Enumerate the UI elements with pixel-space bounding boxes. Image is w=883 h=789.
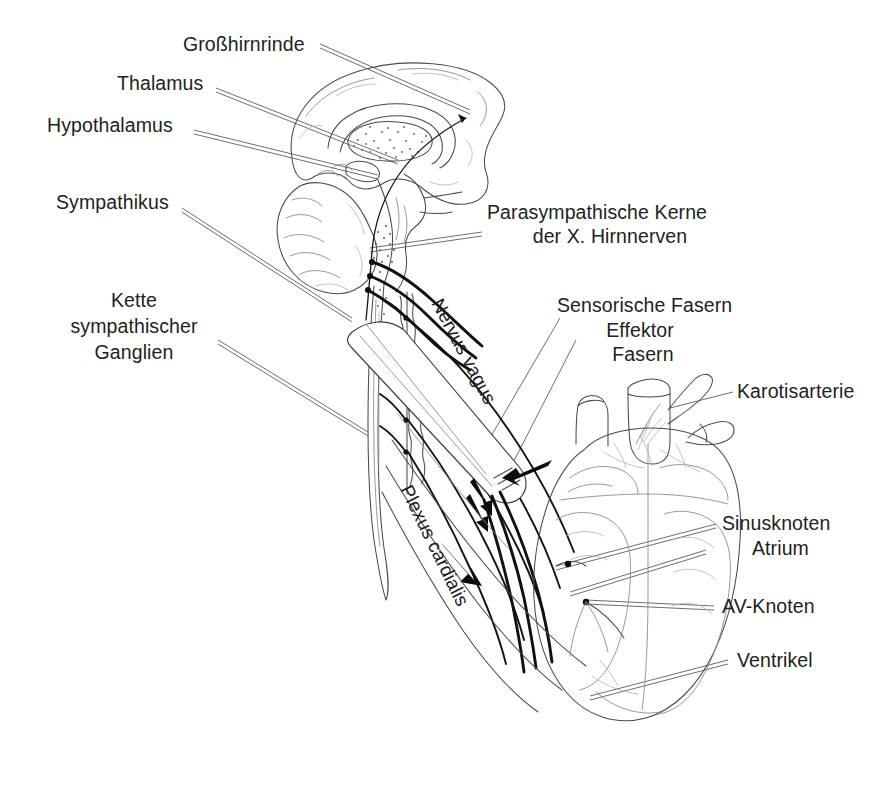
label-ventrikel: Ventrikel xyxy=(737,649,813,671)
label-kette-line3: Ganglien xyxy=(95,341,174,363)
label-parasympathische-line1: Parasympathische Kerne xyxy=(487,201,707,223)
sinus-node-marker xyxy=(565,561,571,567)
label-parasympathische-line2: der X. Hirnnerven xyxy=(533,225,688,247)
label-karotisarterie: Karotisarterie xyxy=(737,380,854,402)
label-grosshirnrinde: Großhirnrinde xyxy=(183,33,305,55)
label-kette-line1: Kette xyxy=(111,289,157,311)
label-hypothalamus: Hypothalamus xyxy=(47,114,173,136)
label-sympathikus: Sympathikus xyxy=(56,191,169,213)
label-atrium: Atrium xyxy=(752,537,809,559)
label-sinusknoten: Sinusknoten xyxy=(722,512,830,534)
label-fasern: Fasern xyxy=(612,343,673,365)
label-av-knoten: AV-Knoten xyxy=(722,595,815,617)
label-kette-line2: sympathischer xyxy=(70,315,197,337)
label-sensorische-fasern: Sensorische Fasern xyxy=(557,294,732,316)
label-thalamus: Thalamus xyxy=(117,72,204,94)
anatomical-figure: Großhirnrinde Thalamus Hypothalamus Symp… xyxy=(0,0,883,789)
label-effektor: Effektor xyxy=(606,319,674,341)
